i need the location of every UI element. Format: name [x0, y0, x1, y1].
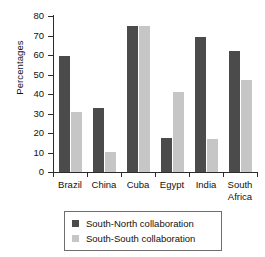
- y-axis-title: Percentages: [14, 13, 25, 123]
- bar: [241, 80, 252, 172]
- bar-group: [195, 16, 218, 172]
- y-tick-label: 40: [33, 88, 44, 99]
- bar: [139, 26, 150, 172]
- bar: [229, 51, 240, 172]
- x-tick-mark: [121, 172, 122, 177]
- y-tick-label: 10: [33, 147, 44, 158]
- y-tick-label: 60: [33, 49, 44, 60]
- plot-bars: [53, 16, 257, 172]
- bar-group: [229, 16, 252, 172]
- bar: [173, 92, 184, 172]
- legend-label-south-south: South-South collaboration: [86, 233, 195, 244]
- bar: [71, 112, 82, 172]
- bar-group: [127, 16, 150, 172]
- bar-group: [93, 16, 116, 172]
- legend-item-south-north: South-North collaboration: [72, 216, 215, 231]
- bar-group: [161, 16, 184, 172]
- x-category-label: China: [87, 179, 121, 191]
- y-tick-label: 70: [33, 30, 44, 41]
- x-category-label: South Africa: [223, 179, 257, 202]
- bar-group: [59, 16, 82, 172]
- x-category-label: India: [189, 179, 223, 191]
- y-tick-label: 50: [33, 69, 44, 80]
- x-category-label: Cuba: [121, 179, 155, 191]
- legend-swatch-icon-south-north: [72, 220, 79, 227]
- x-tick-mark: [53, 172, 54, 177]
- x-tick-mark: [87, 172, 88, 177]
- x-category-label: Brazil: [53, 179, 87, 191]
- bar: [207, 139, 218, 172]
- y-tick-label: 30: [33, 108, 44, 119]
- bar: [195, 37, 206, 172]
- y-tick-label: 0: [39, 166, 44, 177]
- y-tick-label: 20: [33, 127, 44, 138]
- bar: [127, 26, 138, 172]
- x-category-label: Egypt: [155, 179, 189, 191]
- legend-item-south-south: South-South collaboration: [72, 231, 215, 246]
- x-tick-mark: [257, 172, 258, 177]
- bar: [93, 108, 104, 172]
- x-tick-mark: [155, 172, 156, 177]
- legend-label-south-north: South-North collaboration: [86, 218, 194, 229]
- bar: [59, 56, 70, 172]
- bar: [105, 152, 116, 172]
- bar: [161, 138, 172, 172]
- x-tick-mark: [189, 172, 190, 177]
- legend: South-North collaboration South-South co…: [64, 211, 222, 251]
- y-tick-label: 80: [33, 10, 44, 21]
- bar-chart: Percentages 01020304050607080 BrazilChin…: [0, 0, 265, 257]
- x-tick-mark: [223, 172, 224, 177]
- legend-swatch-icon-south-south: [72, 235, 79, 242]
